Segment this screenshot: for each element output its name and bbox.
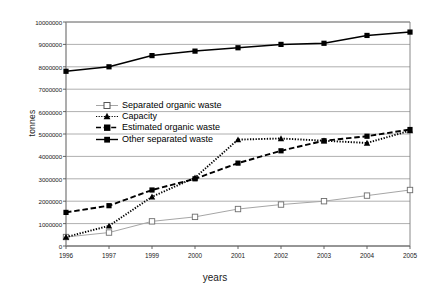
legend-item-separated-organic-waste: Separated organic waste [96, 100, 222, 111]
plot-area [0, 0, 430, 296]
legend-item-estimated-organic-waste: Estimated organic waste [96, 122, 222, 133]
legend-label: Separated organic waste [121, 100, 222, 111]
chart-legend: Separated organic waste Capacity Estimat… [96, 100, 222, 145]
legend-item-other-separated-waste: Other separated waste [96, 134, 222, 145]
legend-label: Estimated organic waste [121, 122, 220, 133]
legend-marker-filled-square-solid-icon [96, 134, 118, 145]
legend-item-capacity: Capacity [96, 111, 222, 122]
chart-container: tonnes years 010000002000000300000040000… [0, 0, 430, 296]
legend-marker-filled-square-icon [96, 122, 118, 133]
legend-label: Capacity [121, 111, 157, 122]
legend-marker-triangle-icon [96, 111, 118, 122]
legend-label: Other separated waste [121, 134, 213, 145]
legend-marker-open-square-icon [96, 100, 118, 111]
